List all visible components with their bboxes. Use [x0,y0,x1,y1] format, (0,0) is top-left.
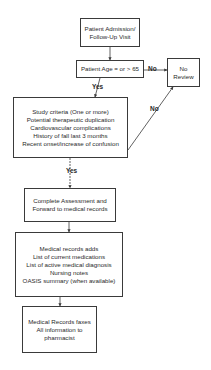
edge-label-age-no: No [148,65,157,72]
node-text: List of active medical diagnosis [26,261,111,269]
node-text: Patient Admission/ [85,25,136,33]
node-admission: Patient Admission/ Follow-Up Visit [80,18,140,47]
node-text: List of current medications [33,253,105,261]
node-text: Cardiovascular complications [30,124,110,132]
node-text: Medical Records faxes [28,318,91,326]
node-age-check: Patient Age = or > 65 [76,60,144,78]
node-text: Complete Assessment and [33,197,107,205]
node-text: Nursing notes [50,269,88,277]
node-text: Medical records adds [40,245,99,253]
node-text: Review [173,73,193,81]
node-text: All information to [36,326,82,334]
node-fax: Medical Records faxes All information to… [22,306,97,353]
edge-label-age-yes: Yes [92,83,103,90]
node-text: Study criteria (One or more) [32,108,109,116]
edge-label-criteria-yes: Yes [66,167,77,174]
edge-label-criteria-no: No [150,105,159,112]
node-text: pharmacist [44,334,74,342]
node-text: No [180,65,188,73]
node-study-criteria: Study criteria (One or more) Potential t… [13,97,128,158]
node-text: OASIS summary (when available) [23,277,116,285]
node-text: Recent onset/increase of confusion [22,140,119,148]
node-assessment: Complete Assessment and Forward to medic… [24,188,116,222]
node-text: Potential therapeutic duplication [27,116,115,124]
node-text: Forward to medical records [33,205,108,213]
node-no-review: No Review [167,58,200,87]
node-text: Follow-Up Visit [89,33,130,41]
node-text: History of fall last 3 months [33,132,107,140]
node-records-adds: Medical records adds List of current med… [15,232,123,297]
node-text: Patient Age = or > 65 [81,65,139,73]
